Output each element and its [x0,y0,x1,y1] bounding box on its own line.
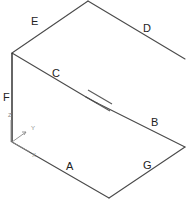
axis-label-y: Y [31,125,35,131]
edge-d [88,1,185,59]
edge-b [97,103,185,147]
axis-label-x: X [32,152,36,158]
label-f: F [3,91,10,103]
x-axis-arrow [12,142,30,152]
label-b: B [151,116,158,128]
edge-g [109,147,185,198]
edge-c [12,53,86,97]
label-e: E [31,15,38,27]
label-c: C [52,67,60,79]
edge-c-continuation [86,97,97,103]
label-d: D [143,22,151,34]
break-line-upper [88,90,112,104]
y-axis-arrow [12,132,26,142]
edge-e [12,1,88,53]
label-g: G [143,159,152,171]
label-a: A [66,160,74,172]
isometric-diagram: Y X Z E D C F B A G [0,0,189,206]
axis-label-z: Z [8,112,12,118]
